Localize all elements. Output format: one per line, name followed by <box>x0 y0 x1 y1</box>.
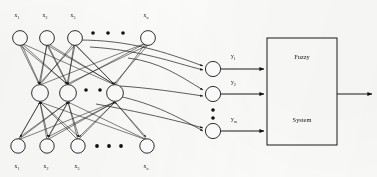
output-node-2 <box>205 86 220 101</box>
network-diagram: x1 x2 x3 xn x1 x2 x3 xn y1 y2 ym Fuzzy S… <box>0 0 377 177</box>
svg-text:xn: xn <box>144 12 149 20</box>
middle-node-2 <box>60 85 77 102</box>
bottom-label-3-sub: 3 <box>77 166 79 171</box>
links-middle-to-top <box>21 43 146 85</box>
svg-text:x2: x2 <box>44 163 49 171</box>
output-node-m <box>205 123 220 138</box>
bottom-ellipsis-dot <box>95 144 99 148</box>
bottom-label-2-sub: 2 <box>46 166 48 171</box>
svg-text:xn: xn <box>144 163 149 171</box>
curved-links-to-outputs <box>78 40 203 131</box>
top-node-2 <box>40 31 55 46</box>
top-node-3 <box>68 31 83 46</box>
bottom-layer-nodes <box>11 139 154 153</box>
top-label-1-sub: 1 <box>17 15 19 20</box>
top-label-3-sub: 3 <box>73 15 75 20</box>
svg-text:y2: y2 <box>231 79 236 87</box>
output-ellipsis-dot <box>211 116 215 120</box>
top-label-n-sub: n <box>146 15 148 20</box>
middle-node-3 <box>107 85 124 102</box>
middle-layer-nodes <box>32 85 124 102</box>
svg-text:ym: ym <box>231 116 238 124</box>
bottom-node-2 <box>40 139 54 153</box>
svg-text:x3: x3 <box>75 163 80 171</box>
top-layer-labels: x1 x2 x3 xn <box>15 12 149 20</box>
top-node-n <box>141 31 156 46</box>
top-ellipsis-dot <box>121 31 125 35</box>
figure-canvas: x1 x2 x3 xn x1 x2 x3 xn y1 y2 ym Fuzzy S… <box>0 0 377 177</box>
middle-ellipsis-dot <box>84 88 88 92</box>
top-ellipsis-dot <box>106 31 110 35</box>
output-label-m-sub: m <box>234 119 238 124</box>
svg-text:x2: x2 <box>43 12 48 20</box>
svg-text:y1: y1 <box>231 53 236 61</box>
bottom-node-1 <box>11 139 25 153</box>
svg-text:x3: x3 <box>71 12 76 20</box>
output-ellipsis-dot <box>211 108 215 112</box>
top-node-1 <box>13 31 28 46</box>
svg-text:x1: x1 <box>15 163 20 171</box>
bottom-node-n <box>140 139 154 153</box>
bottom-label-n-sub: n <box>146 166 148 171</box>
top-label-2-sub: 2 <box>45 15 47 20</box>
fuzzy-box-line2: System <box>293 116 312 123</box>
top-layer-nodes <box>13 31 156 46</box>
output-layer-nodes <box>205 61 220 138</box>
bottom-layer-labels: x1 x2 x3 xn <box>15 163 149 171</box>
output-label-2-sub: 2 <box>234 82 236 87</box>
output-label-1-sub: 1 <box>234 56 236 61</box>
top-ellipsis-dot <box>91 31 95 35</box>
bottom-node-3 <box>71 139 85 153</box>
middle-node-1 <box>32 85 49 102</box>
links-bottom-to-middle <box>18 102 147 140</box>
output-layer-labels: y1 y2 ym <box>231 53 238 124</box>
links-outputs-to-fuzzy-box <box>221 69 264 131</box>
svg-text:x1: x1 <box>15 12 20 20</box>
bottom-label-1-sub: 1 <box>17 166 19 171</box>
bottom-ellipsis-dot <box>119 144 123 148</box>
output-node-1 <box>205 61 220 76</box>
bottom-ellipsis-dot <box>107 144 111 148</box>
fuzzy-box-line1: Fuzzy <box>294 53 310 60</box>
middle-ellipsis-dot <box>98 88 102 92</box>
